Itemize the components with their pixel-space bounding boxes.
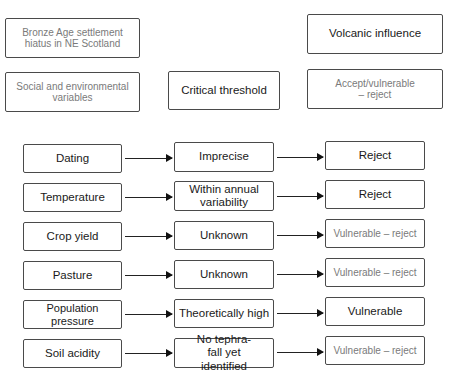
threshold-label: No tephra-fall yet identified <box>191 333 257 373</box>
variable-label: Temperature <box>40 191 105 204</box>
result-label: Reject <box>359 149 392 162</box>
threshold-header-box: Critical threshold <box>168 71 280 110</box>
arrow-icon <box>125 275 172 276</box>
result-box: Vulnerable – reject <box>325 258 425 287</box>
hiatus-label: Bronze Age settlement hiatus in NE Scotl… <box>22 27 123 50</box>
arrow-icon <box>125 314 172 315</box>
variables-box: Social and environmental variables <box>5 72 140 112</box>
threshold-box: Unknown <box>174 260 274 289</box>
variable-label: Population pressure <box>24 302 121 327</box>
variable-box-temperature: Temperature <box>23 183 122 212</box>
result-label: Vulnerable <box>348 305 403 318</box>
threshold-label: Unknown <box>200 268 248 281</box>
arrow-icon <box>277 274 323 275</box>
arrow-icon <box>277 196 323 197</box>
result-box: Reject <box>325 180 425 209</box>
arrow-icon <box>277 157 323 158</box>
variable-box-population-pressure: Population pressure <box>23 300 122 329</box>
result-label: Vulnerable – reject <box>333 345 416 357</box>
arrow-icon <box>277 352 323 353</box>
result-box: Vulnerable – reject <box>325 219 425 248</box>
threshold-label: Imprecise <box>199 150 249 163</box>
result-label: Vulnerable – reject <box>333 267 416 279</box>
arrow-icon <box>277 235 323 236</box>
accept-box: Accept/vulnerable – reject <box>307 69 443 109</box>
variable-label: Dating <box>56 152 89 165</box>
variable-label: Soil acidity <box>45 347 100 360</box>
result-label: Reject <box>359 188 392 201</box>
variable-label: Crop yield <box>47 230 99 243</box>
variable-box-crop-yield: Crop yield <box>23 222 122 251</box>
result-box: Vulnerable <box>325 297 425 326</box>
threshold-box: Theoretically high <box>174 299 274 328</box>
threshold-header-label: Critical threshold <box>181 84 267 97</box>
arrow-icon <box>125 236 172 237</box>
arrow-icon <box>125 353 172 354</box>
hiatus-box: Bronze Age settlement hiatus in NE Scotl… <box>5 18 140 58</box>
result-box: Vulnerable – reject <box>325 336 425 365</box>
result-label: Vulnerable – reject <box>333 228 416 240</box>
threshold-box: Unknown <box>174 221 274 250</box>
volcanic-label: Volcanic influence <box>329 27 421 40</box>
threshold-box: Imprecise <box>174 142 274 172</box>
threshold-label: Theoretically high <box>179 307 269 320</box>
arrow-icon <box>125 197 172 198</box>
threshold-box: No tephra-fall yet identified <box>174 338 274 368</box>
threshold-box: Within annual variability <box>174 181 274 211</box>
variable-box-soil-acidity: Soil acidity <box>23 339 122 368</box>
arrow-icon <box>277 313 323 314</box>
threshold-label: Unknown <box>200 229 248 242</box>
threshold-label: Within annual variability <box>189 183 259 209</box>
variables-label: Social and environmental variables <box>14 81 131 104</box>
arrow-icon <box>125 158 172 159</box>
result-box: Reject <box>325 141 425 170</box>
accept-label: Accept/vulnerable – reject <box>332 78 418 101</box>
volcanic-box: Volcanic influence <box>307 14 443 54</box>
variable-box-dating: Dating <box>23 144 122 173</box>
variable-box-pasture: Pasture <box>23 261 122 290</box>
variable-label: Pasture <box>53 269 93 282</box>
